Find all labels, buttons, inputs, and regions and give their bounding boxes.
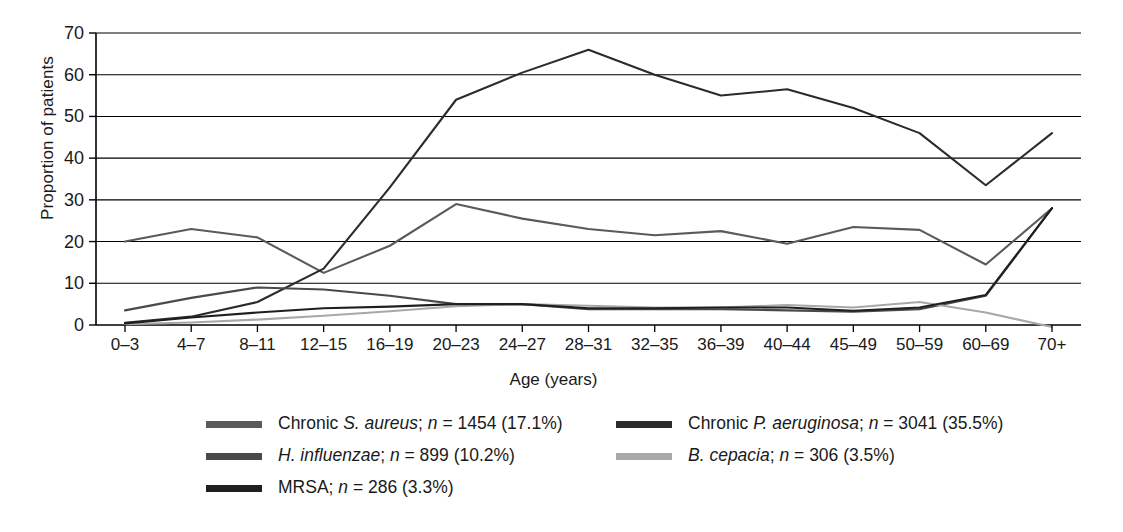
legend-swatch-chronic-p-aeruginosa bbox=[616, 421, 672, 428]
legend-label: MRSA; n = 286 (3.3%) bbox=[278, 479, 454, 497]
series-line-h-influenzae bbox=[125, 208, 1052, 311]
legend-n-symbol: n bbox=[779, 445, 789, 465]
legend-species-name: P. aeruginosa bbox=[753, 413, 859, 433]
x-tick-label: 36–39 bbox=[697, 336, 744, 353]
x-tick-label: 24–27 bbox=[499, 336, 546, 353]
legend-row: H. influenzae; n = 899 (10.2%)B. cepacia… bbox=[0, 440, 1123, 472]
y-tick-label: 20 bbox=[24, 233, 84, 251]
legend-species-name: H. influenzae bbox=[278, 445, 380, 465]
legend-label: B. cepacia; n = 306 (3.5%) bbox=[688, 447, 895, 465]
y-tick-label: 50 bbox=[24, 107, 84, 125]
chart-figure: Proportion of patients 010203040506070 0… bbox=[0, 0, 1123, 532]
legend-species-name: B. cepacia bbox=[688, 445, 770, 465]
x-tick-label: 4–7 bbox=[177, 336, 205, 353]
y-tick-label: 30 bbox=[24, 191, 84, 209]
legend-n-symbol: n bbox=[390, 445, 400, 465]
series-line-chronic-p-aeruginosa bbox=[125, 50, 1052, 323]
legend-n-symbol: n bbox=[338, 477, 348, 497]
legend-swatch-b-cepacia bbox=[616, 453, 672, 460]
legend-label: Chronic P. aeruginosa; n = 3041 (35.5%) bbox=[688, 415, 1003, 433]
legend: Chronic S. aureus; n = 1454 (17.1%)Chron… bbox=[0, 408, 1123, 504]
legend-column-left: Chronic S. aureus; n = 1454 (17.1%) bbox=[206, 415, 616, 433]
x-tick-label: 8–11 bbox=[239, 336, 276, 353]
legend-column-left: MRSA; n = 286 (3.3%) bbox=[206, 479, 616, 497]
legend-label: H. influenzae; n = 899 (10.2%) bbox=[278, 447, 515, 465]
x-axis-title-text: Age (years) bbox=[510, 370, 598, 390]
legend-column-right: B. cepacia; n = 306 (3.5%) bbox=[616, 447, 1056, 465]
series-line-chronic-s-aureus bbox=[125, 204, 1052, 273]
x-tick-label: 50–59 bbox=[896, 336, 943, 353]
plot-area bbox=[96, 33, 1081, 325]
y-tick-label: 10 bbox=[24, 274, 84, 292]
legend-swatch-chronic-s-aureus bbox=[206, 421, 262, 428]
legend-label: Chronic S. aureus; n = 1454 (17.1%) bbox=[278, 415, 563, 433]
legend-n-symbol: n bbox=[428, 413, 438, 433]
x-tick-label: 32–35 bbox=[631, 336, 678, 353]
legend-row: MRSA; n = 286 (3.3%) bbox=[0, 472, 1123, 504]
legend-n-symbol: n bbox=[869, 413, 879, 433]
x-tick-label: 70+ bbox=[1038, 336, 1067, 353]
x-tick-label: 40–44 bbox=[764, 336, 811, 353]
legend-row: Chronic S. aureus; n = 1454 (17.1%)Chron… bbox=[0, 408, 1123, 440]
x-tick-label: 28–31 bbox=[565, 336, 612, 353]
x-tick-label: 60–69 bbox=[962, 336, 1009, 353]
legend-species-name: S. aureus bbox=[343, 413, 418, 433]
x-tick-label: 20–23 bbox=[432, 336, 479, 353]
series-line-b-cepacia bbox=[125, 302, 1052, 327]
x-tick-label: 12–15 bbox=[300, 336, 347, 353]
legend-swatch-h-influenzae bbox=[206, 453, 262, 460]
x-tick-label: 45–49 bbox=[830, 336, 877, 353]
x-axis-title: Age (years) bbox=[0, 370, 1123, 390]
y-tick-label: 60 bbox=[24, 66, 84, 84]
legend-swatch-mrsa bbox=[206, 485, 262, 492]
legend-column-left: H. influenzae; n = 899 (10.2%) bbox=[206, 447, 616, 465]
x-tick-label: 16–19 bbox=[366, 336, 413, 353]
y-tick-label: 0 bbox=[24, 316, 84, 334]
y-tick-label: 40 bbox=[24, 149, 84, 167]
series-canvas bbox=[96, 33, 1081, 335]
y-tick-label: 70 bbox=[24, 24, 84, 42]
x-tick-label: 0–3 bbox=[111, 336, 139, 353]
legend-column-right: Chronic P. aeruginosa; n = 3041 (35.5%) bbox=[616, 415, 1056, 433]
